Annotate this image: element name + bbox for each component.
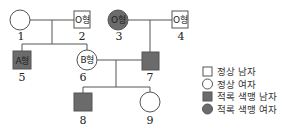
individual-label: 5 [19, 71, 26, 84]
individual-label: 1 [18, 30, 25, 43]
legend: 정상 남자 정상 여자 적록 색맹 남자 적록 색맹 여자 [203, 66, 278, 115]
individual-label: 7 [147, 71, 154, 84]
individual-label: 4 [178, 30, 185, 43]
blood-type: O형 [173, 15, 188, 25]
legend-label: 정상 남자 [217, 66, 256, 77]
individual-2: O형 2 [74, 11, 90, 43]
individual-7: 7 [142, 52, 159, 84]
circle-filled-icon [203, 104, 213, 114]
individual-label: 9 [147, 114, 154, 127]
male-affected-icon [74, 93, 92, 111]
individual-4: O형 4 [172, 11, 188, 43]
circle-outline-icon [203, 79, 213, 89]
blood-type: B형 [80, 55, 94, 65]
pedigree-diagram: 1 O형 2 O형 3 O형 4 A형 5 B형 6 7 8 [0, 0, 284, 134]
individual-label: 8 [80, 114, 87, 127]
blood-type: O형 [111, 15, 126, 25]
individual-label: 6 [80, 71, 87, 84]
individual-1: 1 [10, 10, 30, 43]
legend-label: 적록 색맹 여자 [217, 104, 277, 115]
male-affected-icon [142, 52, 159, 70]
square-outline-icon [203, 67, 212, 76]
legend-label: 적록 색맹 남자 [217, 91, 277, 102]
legend-label: 정상 여자 [217, 79, 256, 90]
legend-item-normal-female: 정상 여자 [203, 79, 257, 90]
blood-type: A형 [15, 56, 29, 66]
female-normal-icon [10, 10, 30, 30]
legend-item-normal-male: 정상 남자 [203, 66, 256, 77]
individual-6: B형 6 [77, 50, 97, 84]
individual-5: A형 5 [13, 51, 31, 84]
individual-label: 2 [79, 30, 86, 43]
square-filled-icon [203, 92, 212, 101]
legend-item-affected-male: 적록 색맹 남자 [203, 91, 277, 102]
individual-9: 9 [140, 92, 160, 127]
blood-type: O형 [75, 15, 90, 25]
female-normal-icon [140, 92, 160, 112]
individual-8: 8 [74, 93, 92, 127]
individual-3: O형 3 [108, 10, 128, 43]
legend-item-affected-female: 적록 색맹 여자 [203, 104, 278, 115]
individual-label: 3 [116, 30, 123, 43]
